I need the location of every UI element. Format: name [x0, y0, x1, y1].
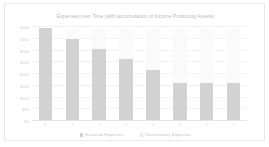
y-tick-label: $100 [20, 95, 29, 100]
x-tick-label: 1 [71, 122, 73, 128]
bar-group[interactable] [173, 27, 186, 121]
x-tick-label: 0 [44, 122, 46, 128]
bar-segment-discretionary[interactable] [146, 29, 159, 70]
legend-swatch-icon [80, 133, 84, 137]
bar-group[interactable] [119, 27, 132, 121]
x-tick-label: 6 [206, 122, 208, 128]
bar-group[interactable] [39, 27, 52, 121]
bar-segment-discretionary[interactable] [227, 29, 240, 83]
bar-segment-essential[interactable] [200, 83, 213, 121]
bar-group[interactable] [200, 27, 213, 121]
chart-card: Expenses over Time (with accumulation of… [0, 0, 269, 147]
bar-group[interactable] [66, 27, 79, 121]
bar-segment-essential[interactable] [227, 83, 240, 121]
x-axis: 01234567 [32, 122, 247, 130]
bar-segment-essential[interactable] [92, 49, 105, 121]
y-tick-label: $0 [24, 119, 29, 124]
x-axis-line [32, 120, 247, 121]
bar-segment-discretionary[interactable] [92, 29, 105, 49]
x-tick-label: 3 [125, 122, 127, 128]
legend-entry[interactable]: Essential Expenses [80, 132, 124, 138]
chart-title: Expenses over Time (with accumulation of… [5, 13, 266, 20]
legend-label: Discretionary Expenses [145, 132, 191, 138]
bar-segment-discretionary[interactable] [119, 29, 132, 58]
bar-segment-discretionary[interactable] [200, 29, 213, 83]
y-tick-label: $400 [20, 25, 29, 30]
y-axis: $0$50$100$150$200$250$300$350$400 [11, 27, 31, 121]
y-tick-label: $350 [20, 36, 29, 41]
bar-segment-discretionary[interactable] [173, 29, 186, 83]
plot-area [32, 27, 247, 121]
x-tick-label: 2 [98, 122, 100, 128]
chart-frame: Expenses over Time (with accumulation of… [4, 3, 265, 141]
bar-segment-essential[interactable] [146, 70, 159, 121]
y-tick-label: $300 [20, 48, 29, 53]
y-tick-label: $150 [20, 83, 29, 88]
bar-segment-discretionary[interactable] [66, 29, 79, 38]
legend-label: Essential Expenses [85, 132, 123, 138]
bar-segment-essential[interactable] [173, 83, 186, 121]
chart-legend: Essential ExpensesDiscretionary Expenses [5, 132, 266, 138]
x-tick-label: 7 [232, 122, 234, 128]
y-tick-label: $50 [22, 107, 29, 112]
bar-group[interactable] [92, 27, 105, 121]
bar-group[interactable] [146, 27, 159, 121]
x-tick-label: 5 [179, 122, 181, 128]
x-tick-label: 4 [152, 122, 154, 128]
bar-segment-essential[interactable] [66, 39, 79, 121]
bar-segment-essential[interactable] [119, 59, 132, 121]
y-tick-label: $250 [20, 60, 29, 65]
bar-segment-essential[interactable] [39, 28, 52, 121]
legend-entry[interactable]: Discretionary Expenses [140, 132, 192, 138]
bar-group[interactable] [227, 27, 240, 121]
bar-series-container [32, 27, 247, 121]
legend-swatch-icon [140, 133, 144, 137]
y-tick-label: $200 [20, 72, 29, 77]
